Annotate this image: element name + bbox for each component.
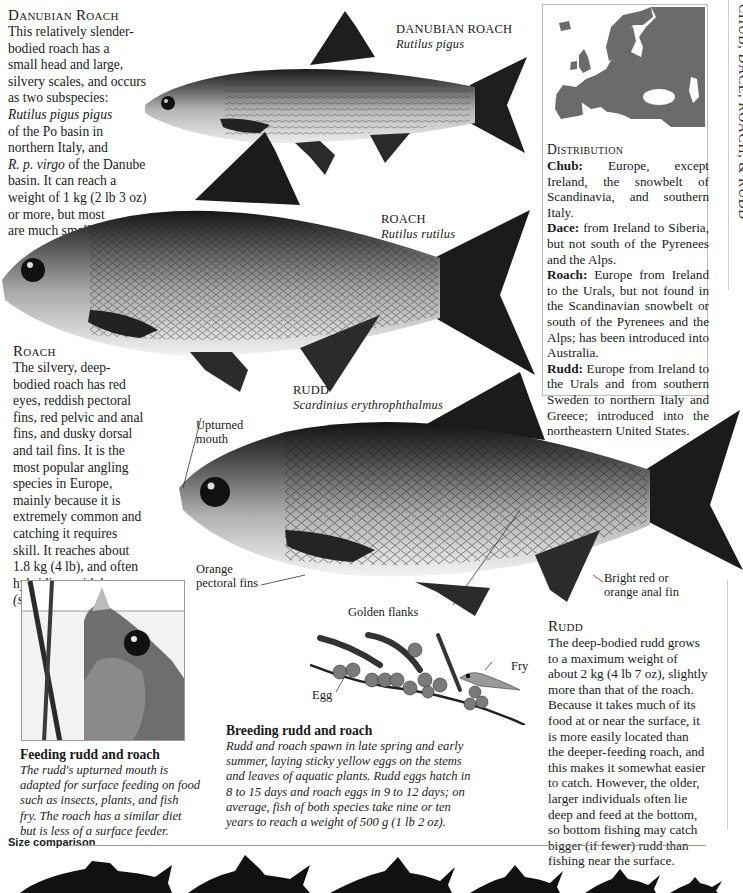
text-line: to a maximum weight of [548, 651, 732, 667]
text-line: the deeper-feeding roach, and [548, 744, 732, 760]
text-line: to catch. However, the older, [548, 775, 732, 791]
size-comparison-silhouettes [0, 855, 743, 893]
fry-label: Fry [511, 659, 528, 673]
running-header: CHUB, DACE, ROACH, & RUDD [735, 4, 743, 284]
running-header-text: CHUB, DACE, ROACH, & RUDD [735, 4, 743, 220]
text-line: fry. The roach has a similar diet [20, 809, 220, 824]
text-line: years to reach a weight of 500 g (1 lb 2… [226, 815, 526, 830]
feeding-fish-image [22, 581, 185, 741]
text-line: catching it requires [13, 526, 173, 543]
text-line: mainly because it is [13, 493, 173, 510]
text-line: this makes it somewhat easier [548, 760, 732, 776]
distribution-entry-roach: Roach: Europe from Ireland to the Urals,… [547, 267, 709, 361]
text-line: summer, laying sticky yellow eggs on the… [226, 754, 526, 769]
text-line: most popular angling [13, 460, 173, 477]
silhouette-1 [20, 861, 172, 893]
europe-map-icon [551, 7, 705, 127]
caption-title: Breeding rudd and roach [226, 723, 526, 739]
text-line: bodied roach has red [13, 377, 173, 394]
egg-label: Egg [312, 688, 332, 702]
rudd-box-rule [727, 580, 728, 830]
caption-body: The rudd's upturned mouth is adapted for… [20, 763, 220, 839]
feeding-illustration [21, 580, 185, 741]
text-line: The rudd's upturned mouth is [20, 763, 220, 778]
text-line: is more easily located than [548, 729, 732, 745]
text-line: average, fish of both species take nine … [226, 800, 526, 815]
distribution-map [551, 7, 705, 127]
text-line: more than that of the roach. [548, 682, 732, 698]
callout-anal-fin: Bright red or orange anal fin [604, 571, 679, 599]
callout-text: pectoral fins [196, 576, 258, 590]
rudd-section: Rudd The deep-bodied rudd grows to a max… [548, 618, 732, 869]
size-comparison-label: Size comparison [8, 836, 95, 848]
text-line: food at or near the surface, it [548, 713, 732, 729]
callout-text: Bright red or [604, 571, 679, 585]
size-comparison-rule [68, 845, 706, 846]
text-line: so bottom fishing may catch [548, 822, 732, 838]
text-line: about 2 kg (4 lb 7 oz), slightly [548, 666, 732, 682]
callout-upturned-mouth: Upturned mouth [196, 418, 243, 446]
text-line: and leaves of aquatic plants. Rudd eggs … [226, 769, 526, 784]
header-rule [728, 0, 729, 290]
text-line: fins, red pelvic and anal [13, 410, 173, 427]
text-line: deep and feed at the bottom, [548, 807, 732, 823]
callout-text: Orange [196, 562, 258, 576]
callout-text: Fry [511, 659, 528, 673]
text-line: and tail fins. It is the [13, 443, 173, 460]
feeding-caption: Feeding rudd and roach The rudd's upturn… [20, 747, 220, 839]
callout-text: Egg [312, 688, 332, 702]
distribution-heading: Distribution [547, 141, 709, 158]
text-line: species in Europe, [13, 476, 173, 493]
roach-section: Roach The silvery, deep- bodied roach ha… [13, 343, 173, 609]
text-line: such as insects, plants, and fish [20, 793, 220, 808]
text-line: The deep-bodied rudd grows [548, 635, 732, 651]
distribution-entry-chub: Chub: Europe, except Ireland, the snowbe… [547, 158, 709, 220]
species-name: Roach: [547, 267, 587, 282]
callout-text: orange anal fin [604, 585, 679, 599]
callout-text: Upturned [196, 418, 243, 432]
silhouette-6 [670, 877, 722, 893]
rudd-description: The deep-bodied rudd grows to a maximum … [548, 635, 732, 869]
text-line: adapted for surface feeding on food [20, 778, 220, 793]
silhouette-3 [330, 857, 455, 893]
callout-text: mouth [196, 432, 243, 446]
callout-text: Golden flanks [348, 605, 418, 619]
text-line: 8 to 15 days and roach eggs in 9 to 12 d… [226, 785, 526, 800]
silhouette-4 [470, 865, 563, 893]
text-line: Rudd and roach spawn in late spring and … [226, 739, 526, 754]
roach-description: The silvery, deep- bodied roach has red … [13, 360, 173, 609]
species-name: Dace: [547, 220, 579, 235]
caption-body: Rudd and roach spawn in late spring and … [226, 739, 526, 830]
text-line: eyes, reddish pectoral [13, 393, 173, 410]
text-line: 1.8 kg (4 lb), and often [13, 559, 173, 576]
text-line: larger individuals often lie [548, 791, 732, 807]
caption-title: Feeding rudd and roach [20, 747, 220, 763]
text-line: The silvery, deep- [13, 360, 173, 377]
roach-heading: Roach [13, 343, 173, 360]
breeding-caption: Breeding rudd and roach Rudd and roach s… [226, 723, 526, 830]
callout-orange-pectoral-fins: Orange pectoral fins [196, 562, 258, 590]
rudd-heading: Rudd [548, 618, 732, 635]
silhouette-2 [188, 855, 310, 893]
silhouette-5 [585, 869, 660, 893]
species-name: Chub: [547, 158, 583, 173]
text-line: fins, and dusky dorsal [13, 426, 173, 443]
text-line: extremely common and [13, 509, 173, 526]
text-line: skill. It reaches about [13, 543, 173, 560]
callout-golden-flanks: Golden flanks [348, 605, 418, 619]
text-line: Because it takes much of its [548, 697, 732, 713]
distribution-entry-dace: Dace: from Ireland to Siberia, but not s… [547, 220, 709, 267]
eggs-on-plant-illustration [310, 630, 525, 725]
